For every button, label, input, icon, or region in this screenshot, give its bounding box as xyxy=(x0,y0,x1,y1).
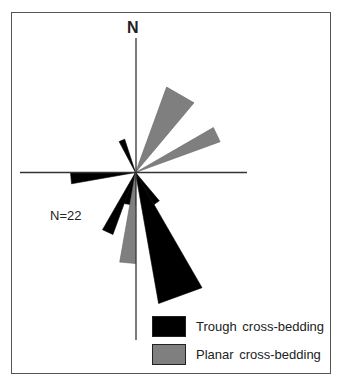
trough-petal xyxy=(119,139,135,172)
legend-label-planar: Planar cross-bedding xyxy=(196,347,321,362)
legend-label-trough: Trough cross-bedding xyxy=(196,319,324,334)
north-label: N xyxy=(127,19,139,37)
legend-item-planar: Planar cross-bedding xyxy=(152,344,321,365)
legend-swatch-trough xyxy=(152,316,186,337)
trough-petal xyxy=(71,173,136,184)
legend-item-trough: Trough cross-bedding xyxy=(152,316,324,337)
trough-petal xyxy=(136,173,203,304)
legend-swatch-planar xyxy=(152,344,186,365)
sample-count-label: N=22 xyxy=(50,208,81,223)
